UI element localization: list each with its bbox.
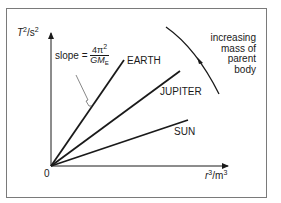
annotation-line: body — [196, 65, 256, 76]
increasing-mass-annotation: increasing mass of parent body — [196, 33, 256, 75]
origin-label: 0 — [44, 168, 50, 179]
graph-canvas — [0, 0, 281, 203]
slope-pointer-icon — [76, 75, 92, 106]
earth-line — [51, 60, 124, 166]
x-axis-label: r3/m3 — [205, 170, 227, 181]
numerator-text: 4π — [92, 45, 103, 55]
earth-label: EARTH — [127, 55, 161, 66]
x-power: 3 — [208, 169, 212, 176]
annotation-line: parent — [196, 54, 256, 65]
jupiter-label: JUPITER — [160, 86, 202, 97]
slope-text: slope = — [55, 50, 88, 61]
annotation-line: increasing — [196, 33, 256, 44]
denominator-text: GM — [90, 55, 105, 65]
sun-label: SUN — [174, 126, 195, 137]
slope-fraction: 4π2 GME — [90, 46, 109, 65]
y-power: 2 — [23, 26, 27, 33]
x-unit-power: 3 — [223, 169, 227, 176]
slope-label: slope = 4π2 GME — [55, 46, 109, 65]
sun-line — [51, 120, 188, 166]
y-axis-label: T2/s2 — [17, 27, 39, 38]
denominator-sub: E — [105, 60, 109, 66]
y-unit-power: 2 — [35, 26, 39, 33]
slope-denominator: GME — [90, 56, 109, 65]
numerator-power: 2 — [103, 43, 107, 50]
